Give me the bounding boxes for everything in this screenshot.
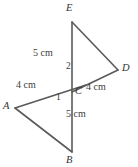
length-label-CB: 5 cm bbox=[66, 109, 86, 119]
angle-label-2: 2 bbox=[66, 62, 71, 72]
segment-E-D bbox=[72, 22, 118, 70]
geometry-figure: E D C A B 5 cm 4 cm 4 cm 5 cm 2 1 bbox=[0, 0, 138, 167]
length-label-CD: 4 cm bbox=[86, 82, 106, 92]
vertex-label-A: A bbox=[3, 101, 9, 112]
length-label-AC: 4 cm bbox=[16, 80, 36, 90]
segment-A-B bbox=[15, 108, 72, 152]
vertex-label-D: D bbox=[122, 63, 130, 74]
vertex-label-E: E bbox=[66, 3, 72, 14]
length-label-EC: 5 cm bbox=[33, 48, 53, 58]
vertex-label-C: C bbox=[75, 86, 82, 97]
angle-label-1: 1 bbox=[56, 93, 61, 103]
vertex-label-B: B bbox=[66, 155, 72, 166]
